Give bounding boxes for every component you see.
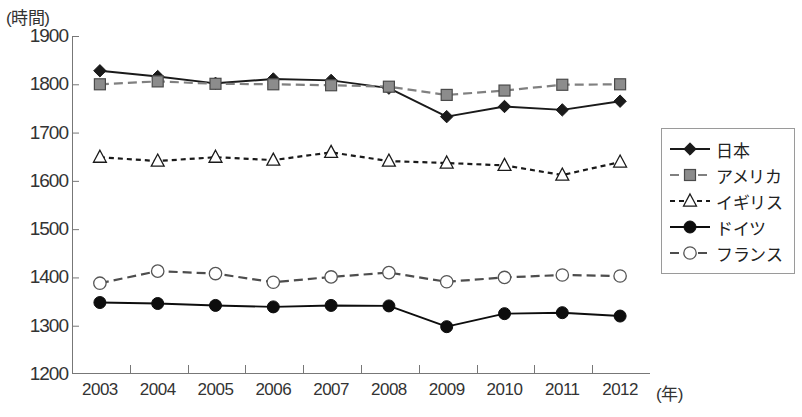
- x-tick-label: 2003: [82, 380, 118, 400]
- marker-diamond: [498, 100, 510, 112]
- marker-circle-open: [209, 267, 221, 279]
- marker-circle-filled: [325, 299, 337, 311]
- marker-square: [383, 81, 394, 92]
- marker-square: [615, 79, 626, 90]
- legend-symbol-filled-circle-icon: [668, 217, 712, 237]
- series-5: [94, 265, 627, 289]
- x-tick-label: 2005: [198, 380, 234, 400]
- marker-triangle: [93, 150, 106, 162]
- marker-circle-open: [325, 271, 337, 283]
- marker-diamond: [684, 143, 696, 155]
- y-tick-label: 1200: [6, 363, 68, 385]
- marker-diamond: [94, 65, 106, 77]
- legend-item-2[interactable]: アメリカ: [668, 162, 788, 188]
- y-tick-label: 1800: [6, 73, 68, 95]
- marker-triangle: [684, 194, 697, 206]
- y-tick-label: 1900: [6, 25, 68, 47]
- plot-area: [72, 36, 650, 374]
- marker-circle-filled: [684, 221, 696, 233]
- legend-symbol-open-triangle-icon: [668, 191, 712, 211]
- legend-symbol-open-circle-icon: [668, 243, 712, 263]
- marker-circle-filled: [441, 321, 453, 333]
- legend-label: フランス: [716, 241, 782, 266]
- marker-triangle: [267, 153, 280, 165]
- marker-triangle: [498, 158, 511, 170]
- y-tick-label: 1500: [6, 218, 68, 240]
- marker-circle-open: [441, 276, 453, 288]
- marker-circle-filled: [210, 299, 222, 311]
- x-tick-label: 2010: [487, 380, 523, 400]
- legend-symbol-filled-diamond-icon: [668, 139, 712, 159]
- marker-square: [94, 79, 105, 90]
- marker-triangle: [382, 154, 395, 166]
- x-tick-label: 2007: [313, 380, 349, 400]
- data-series-layer: [93, 65, 626, 333]
- marker-circle-filled: [94, 297, 106, 309]
- y-tick-label: 1400: [6, 266, 68, 288]
- marker-circle-filled: [556, 307, 568, 319]
- x-tick-label: 2004: [140, 380, 176, 400]
- legend-item-3[interactable]: イギリス: [668, 188, 788, 214]
- marker-circle-open: [267, 276, 279, 288]
- series-3: [93, 145, 626, 180]
- marker-circle-filled: [499, 308, 511, 320]
- marker-circle-open: [152, 265, 164, 277]
- marker-circle-filled: [614, 310, 626, 322]
- legend-item-1[interactable]: 日本: [668, 136, 788, 162]
- marker-square: [326, 80, 337, 91]
- series-1: [94, 65, 627, 123]
- x-tick-label: 2009: [429, 380, 465, 400]
- x-tick-label: 2012: [602, 380, 638, 400]
- legend-symbol-filled-square-icon: [668, 165, 712, 185]
- marker-diamond: [556, 104, 568, 116]
- y-axis-tick-labels: 19001800170016001500140013001200: [0, 36, 68, 374]
- marker-circle-open: [556, 269, 568, 281]
- marker-square: [557, 79, 568, 90]
- marker-circle-open: [94, 277, 106, 289]
- marker-square: [152, 76, 163, 87]
- marker-triangle: [325, 145, 338, 157]
- legend-label: ドイツ: [716, 215, 766, 240]
- marker-circle-filled: [383, 300, 395, 312]
- marker-diamond: [614, 95, 626, 107]
- x-axis-tick-labels: 2003200420052006200720082009201020112012: [72, 380, 650, 408]
- marker-circle-open: [684, 247, 696, 259]
- x-tick-label: 2006: [255, 380, 291, 400]
- series-2: [94, 76, 625, 101]
- marker-square: [268, 79, 279, 90]
- marker-diamond: [441, 110, 453, 122]
- series-line: [100, 71, 620, 117]
- x-tick-label: 2011: [545, 380, 580, 400]
- series-line: [100, 303, 620, 327]
- legend-item-5[interactable]: フランス: [668, 240, 788, 266]
- marker-circle-open: [498, 271, 510, 283]
- marker-triangle: [151, 154, 164, 166]
- y-tick-label: 1700: [6, 122, 68, 144]
- chart-page: (時間) 19001800170016001500140013001200 20…: [0, 0, 802, 417]
- chart-legend: 日本アメリカイギリスドイツフランス: [661, 128, 795, 274]
- marker-circle-filled: [152, 298, 164, 310]
- marker-square: [499, 85, 510, 96]
- marker-triangle: [614, 155, 627, 167]
- series-line: [100, 152, 620, 175]
- y-tick-label: 1600: [6, 170, 68, 192]
- legend-item-4[interactable]: ドイツ: [668, 214, 788, 240]
- marker-square: [441, 89, 452, 100]
- x-tick-label: 2008: [371, 380, 407, 400]
- marker-circle-open: [614, 270, 626, 282]
- legend-label: アメリカ: [716, 163, 781, 188]
- marker-triangle: [209, 150, 222, 162]
- chart-svg: [72, 36, 650, 374]
- y-tick-label: 1300: [6, 315, 68, 337]
- legend-label: 日本: [716, 137, 749, 162]
- marker-square: [210, 78, 221, 89]
- marker-circle-filled: [267, 301, 279, 313]
- marker-square: [685, 170, 696, 181]
- x-axis-unit-label: (年): [656, 380, 683, 405]
- series-4: [94, 297, 626, 333]
- marker-circle-open: [383, 266, 395, 278]
- legend-label: イギリス: [716, 189, 782, 214]
- series-line: [100, 271, 620, 283]
